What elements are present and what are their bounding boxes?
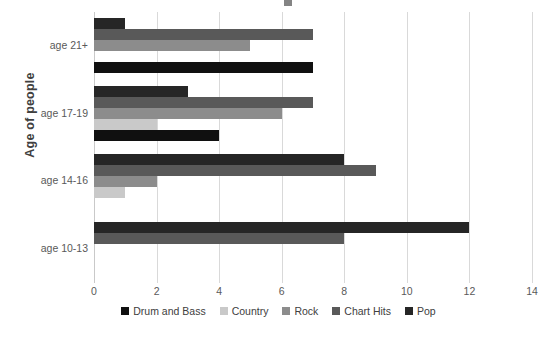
x-tick-label: 10: [401, 285, 413, 297]
bar: [94, 130, 219, 141]
bar: [94, 108, 282, 119]
gridline: [532, 12, 533, 283]
x-tick-label: 2: [154, 285, 160, 297]
bar: [94, 97, 313, 108]
bar: [94, 40, 250, 51]
y-category-label: age 14-16: [0, 174, 88, 186]
bar: [94, 222, 469, 233]
bar: [94, 187, 125, 198]
x-tick-label: 12: [464, 285, 476, 297]
y-category-label: age 21+: [0, 39, 88, 51]
legend-item: Chart Hits: [332, 306, 391, 317]
legend-label: Drum and Bass: [133, 306, 205, 317]
legend-swatch-icon: [282, 307, 290, 315]
y-category-label: age 17-19: [0, 107, 88, 119]
legend-label: Country: [232, 306, 269, 317]
bar: [94, 119, 157, 130]
legend-label: Chart Hits: [344, 306, 391, 317]
legend-item: Pop: [405, 306, 436, 317]
bar: [94, 233, 344, 244]
legend-swatch-icon: [121, 307, 129, 315]
bar: [94, 62, 313, 73]
x-tick-label: 6: [279, 285, 285, 297]
legend-swatch-icon: [332, 307, 340, 315]
truncated-title-artifact: [284, 0, 292, 6]
legend-swatch-icon: [405, 307, 413, 315]
bar: [94, 18, 125, 29]
bar-chart: Age of people 02468101214 age 10-13age 1…: [0, 0, 557, 338]
x-tick-label: 0: [91, 285, 97, 297]
bar: [94, 176, 157, 187]
x-tick-label: 8: [341, 285, 347, 297]
legend-item: Drum and Bass: [121, 306, 205, 317]
legend-item: Country: [220, 306, 269, 317]
chart-legend: Drum and BassCountryRockChart HitsPop: [0, 306, 557, 317]
bar: [94, 154, 344, 165]
legend-swatch-icon: [220, 307, 228, 315]
plot-area: [94, 12, 532, 283]
y-category-label: age 10-13: [0, 242, 88, 254]
legend-label: Rock: [294, 306, 318, 317]
x-tick-label: 14: [526, 285, 538, 297]
legend-label: Pop: [417, 306, 436, 317]
bar: [94, 86, 188, 97]
bar: [94, 165, 376, 176]
bar: [94, 29, 313, 40]
x-tick-label: 4: [216, 285, 222, 297]
legend-item: Rock: [282, 306, 318, 317]
